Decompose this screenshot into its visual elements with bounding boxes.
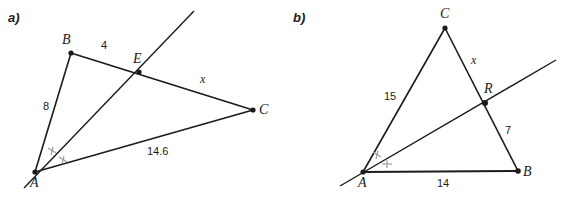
segment-cb (445, 28, 518, 171)
vertex-label-c: C (259, 103, 268, 117)
measure-label-ec: x (200, 73, 205, 85)
vertex-label-a: A (358, 176, 367, 190)
segment-ab (35, 53, 71, 172)
panel-b: b) A B C R 15 x 7 14 (285, 0, 569, 197)
ray-ae-extended (24, 11, 194, 188)
vertex-dot-c (442, 25, 447, 30)
vertex-label-b: B (62, 33, 71, 47)
vertex-label-r: R (484, 82, 493, 96)
panel-a: a) A B C E 8 4 x 14.6 (0, 0, 285, 197)
vertex-dot-r (482, 100, 488, 106)
vertex-label-c: C (440, 7, 449, 21)
vertex-dot-a (32, 169, 37, 174)
measure-label-ab: 14 (437, 178, 449, 189)
segment-ac (363, 28, 445, 172)
measure-label-ab: 8 (43, 101, 49, 112)
panel-a-drawing (0, 0, 285, 197)
segment-bc (71, 53, 253, 110)
segment-ab (363, 171, 518, 172)
measure-label-ac: 14.6 (147, 146, 168, 157)
measure-label-ac: 15 (384, 91, 396, 102)
vertex-dot-e (136, 69, 141, 74)
vertex-dot-c (250, 107, 255, 112)
vertex-dot-a (360, 169, 365, 174)
measure-label-rb: 7 (505, 125, 511, 136)
vertex-dot-b (515, 168, 521, 174)
measure-label-cr: x (471, 54, 476, 66)
angle-bisector-marks-at-a (48, 147, 67, 164)
vertex-label-e: E (133, 52, 142, 66)
vertex-label-a: A (30, 176, 39, 190)
segment-ac (35, 110, 253, 172)
measure-label-be: 4 (101, 40, 107, 51)
vertex-label-b: B (523, 165, 532, 179)
geometry-figure-page: a) A B C E 8 4 x 14.6 (0, 0, 569, 197)
vertex-dot-b (68, 50, 73, 55)
